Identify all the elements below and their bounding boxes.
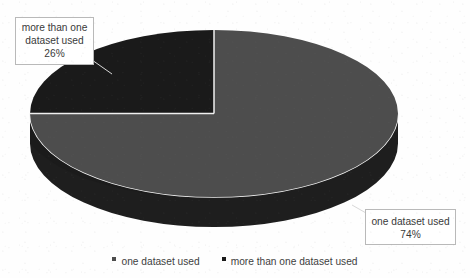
data-label-more-line1: more than one bbox=[22, 22, 88, 33]
data-label-more-line2: dataset used bbox=[25, 35, 83, 46]
data-label-more-than-one: more than one dataset used 26% bbox=[15, 17, 94, 65]
data-label-one-dataset: one dataset used 74% bbox=[365, 209, 456, 245]
legend-label-more-than-one: more than one dataset used bbox=[231, 256, 358, 268]
legend-square-marker-icon bbox=[112, 257, 116, 261]
legend-item-more-than-one[interactable]: more than one dataset used bbox=[222, 256, 358, 268]
legend-square-marker-icon bbox=[222, 257, 226, 261]
data-label-one-line1: one dataset used bbox=[371, 216, 449, 227]
pie-chart: more than one dataset used 26% one datas… bbox=[0, 0, 470, 278]
leader-line-one-dataset bbox=[352, 205, 366, 213]
chart-legend: one dataset used more than one dataset u… bbox=[0, 256, 470, 274]
legend-label-one-dataset: one dataset used bbox=[121, 256, 199, 268]
legend-item-one-dataset[interactable]: one dataset used bbox=[112, 256, 199, 268]
data-label-more-percent: 26% bbox=[20, 47, 89, 60]
data-label-one-percent: 74% bbox=[370, 228, 451, 241]
